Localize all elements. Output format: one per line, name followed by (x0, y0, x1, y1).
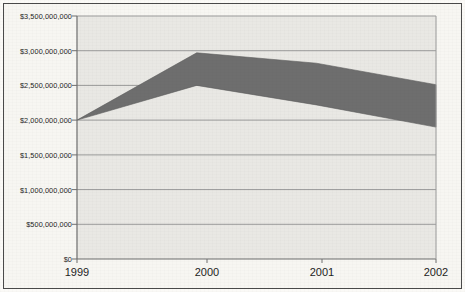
x-axis-label-2000: 2000 (177, 267, 237, 278)
x-axis-label-2002: 2002 (406, 267, 465, 278)
x-axis-label-2001: 2001 (292, 267, 352, 278)
x-axis-tick-labels: 1999 2000 2001 2002 (0, 0, 465, 292)
chart-figure: $3,500,000,000 $3,000,000,000 $2,500,000… (0, 0, 465, 292)
x-axis-label-1999: 1999 (47, 267, 107, 278)
